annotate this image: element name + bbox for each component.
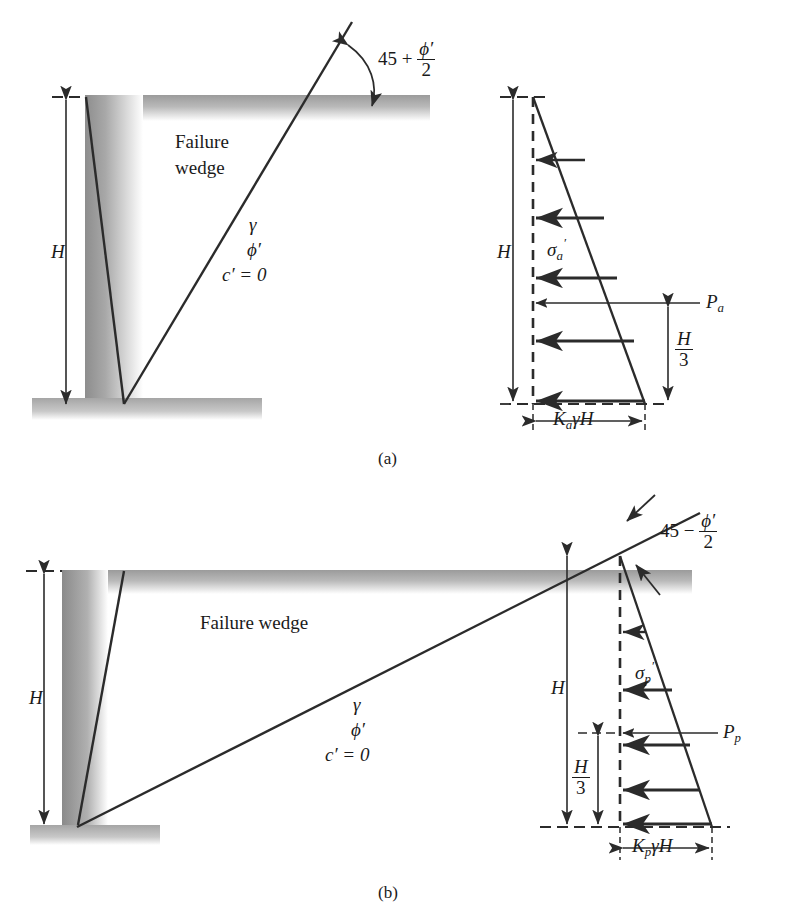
panel-b-stress-subscript: p xyxy=(644,671,650,686)
panel-a-gamma-symbol: γ xyxy=(572,408,580,429)
panel-a-resultant-subscript: a xyxy=(718,300,724,315)
panel-a-wall-band xyxy=(85,95,143,417)
panel-b-lever-arm-numerator: H xyxy=(572,757,590,778)
panel-a-angle-fraction: ϕ′ 2 xyxy=(417,39,435,81)
panel-b-friction-angle-label: ϕ′ xyxy=(351,720,365,739)
panel-a-stress-symbol-group: σa′ xyxy=(547,240,563,263)
panel-b-lever-arm-denominator: 3 xyxy=(572,778,590,799)
panel-b-resultant-subscript: p xyxy=(735,730,741,745)
panel-b-pressure-height-label: H xyxy=(551,678,565,697)
panel-a-stress-symbol: σ xyxy=(547,239,556,260)
panel-b-caption: (b) xyxy=(378,884,398,901)
panel-a-lever-arm-denominator: 3 xyxy=(675,350,693,371)
panel-a-height-label: H xyxy=(51,242,65,261)
panel-b-stress-prime: ′ xyxy=(652,659,655,672)
panel-b-angle-numerator: ϕ′ xyxy=(699,511,717,532)
panel-b-lever-arm-label: H 3 xyxy=(572,758,590,800)
panel-a-lever-arm-fraction: H 3 xyxy=(675,329,693,371)
panel-b-angle-denominator: 2 xyxy=(699,532,717,553)
panel-a-wedge-label-line2: wedge xyxy=(175,158,225,177)
panel-a-stress-prime: ′ xyxy=(564,236,567,249)
panel-b-coef-symbol: K xyxy=(632,835,645,856)
panel-b-unit-weight-label: γ xyxy=(353,695,361,714)
panel-b-stress-label: σp′ xyxy=(635,663,651,686)
panel-a-stress-subscript: a xyxy=(556,248,562,263)
panel-a-angle-denominator: 2 xyxy=(417,60,435,81)
panel-a-base-pressure-label: KaγH xyxy=(553,409,593,432)
panel-b-gamma-symbol: γ xyxy=(651,835,659,856)
panel-a-resultant-label: Pa xyxy=(706,292,724,315)
panel-a-coef-symbol: K xyxy=(553,408,566,429)
panel-a-graphics xyxy=(32,22,700,432)
panel-b-height-symbol: H xyxy=(659,835,673,856)
panel-a-resultant-symbol: P xyxy=(706,291,718,312)
panel-b-lever-arm-fraction: H 3 xyxy=(572,757,590,799)
panel-a-angle-base: 45 + xyxy=(378,48,412,69)
panel-b-cohesion-label: c′ = 0 xyxy=(325,745,369,764)
panel-b-resultant-label: Pp xyxy=(723,722,741,745)
panel-b-angle-label: 45 − ϕ′ 2 xyxy=(660,512,717,554)
panel-a-lever-arm-numerator: H xyxy=(675,329,693,350)
panel-b-wedge-label: Failure wedge xyxy=(200,613,308,632)
panel-a-failure-plane xyxy=(124,22,352,404)
panel-b-failure-plane xyxy=(77,513,700,827)
panel-b-angle-arrow-upper xyxy=(627,495,655,521)
panel-a-friction-angle-label: ϕ′ xyxy=(247,240,261,259)
panel-a-angle-label: 45 + ϕ′ 2 xyxy=(378,40,435,82)
panel-b-base-pressure-label: KpγH xyxy=(632,836,672,859)
panel-a-height-symbol: H xyxy=(580,408,594,429)
panel-a-stress-label: σa′ xyxy=(547,240,563,263)
panel-a-unit-weight-label: γ xyxy=(249,215,257,234)
panel-b-stress-symbol: σ xyxy=(635,662,644,683)
panel-b-ground-surface xyxy=(62,570,692,594)
panel-b-angle-base: 45 − xyxy=(660,520,694,541)
earth-pressure-figure: 45 + ϕ′ 2 Failure wedge γ ϕ′ c′ = 0 H H … xyxy=(0,0,785,921)
panel-a-cohesion-label: c′ = 0 xyxy=(222,265,266,284)
panel-a-angle-numerator: ϕ′ xyxy=(417,39,435,60)
panel-b-stress-symbol-group: σp′ xyxy=(635,663,651,686)
panel-b-graphics xyxy=(26,495,730,860)
panel-b-resultant-symbol: P xyxy=(723,721,735,742)
panel-b-base-soil xyxy=(30,825,160,845)
panel-b-height-label: H xyxy=(29,688,43,707)
panel-a-caption: (a) xyxy=(378,450,397,467)
panel-a-pressure-height-label: H xyxy=(497,242,511,261)
panel-b-angle-fraction: ϕ′ 2 xyxy=(699,511,717,553)
panel-b-wall-band xyxy=(62,570,108,842)
panel-a-lever-arm-label: H 3 xyxy=(675,330,693,372)
panel-a-wedge-label-line1: Failure xyxy=(175,132,229,151)
